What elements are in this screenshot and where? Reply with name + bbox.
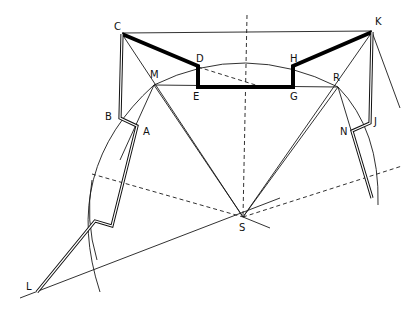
geometric-construction-diagram: C D E G H K M R B A N J S L <box>0 0 420 314</box>
double-wall-left <box>37 34 137 292</box>
label-m: M <box>150 69 159 80</box>
line-s-tail <box>243 217 270 228</box>
line-m-lower <box>120 85 154 160</box>
line-d-dashed <box>198 67 262 87</box>
line-m-s <box>154 85 243 217</box>
line-k-outer <box>372 32 400 108</box>
label-a: A <box>143 126 150 137</box>
line-l-s <box>20 198 280 298</box>
label-j: J <box>373 116 377 127</box>
label-e: E <box>193 91 199 102</box>
label-s: S <box>239 222 245 233</box>
label-g: G <box>290 91 298 102</box>
label-c: C <box>114 21 121 32</box>
label-k: K <box>375 16 382 27</box>
label-d: D <box>196 53 204 64</box>
label-n: N <box>340 126 347 137</box>
axis-vertical-dashed <box>243 15 247 217</box>
arc-circle-s <box>88 63 378 292</box>
line-r-s <box>243 87 338 217</box>
label-r: R <box>333 72 340 83</box>
label-h: H <box>290 53 298 64</box>
label-b: B <box>105 111 112 122</box>
label-l: L <box>26 281 32 292</box>
